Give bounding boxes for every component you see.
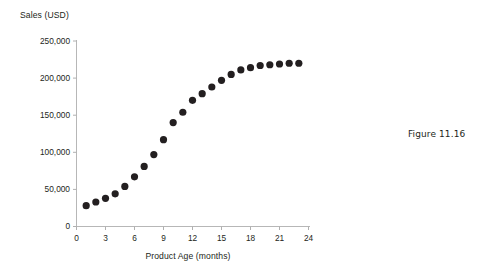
data-point [102, 195, 109, 202]
y-axis-tick-marks [73, 41, 77, 227]
y-axis-tick-label: 50,000 [8, 185, 70, 194]
x-axis-tick-label: 3 [91, 234, 121, 243]
sales-product-age-scatter-chart: Sales (USD) 050,000100,000150,000200,000… [0, 0, 340, 280]
data-point [189, 97, 196, 104]
figure-caption: Figure 11.16 [408, 128, 484, 140]
data-point [276, 60, 283, 67]
data-point [257, 62, 264, 69]
data-point [141, 163, 148, 170]
y-axis-tick-label: 200,000 [8, 74, 70, 83]
axis-lines [76, 40, 310, 227]
x-axis-title: Product Age (months) [76, 251, 300, 261]
y-axis-tick-label: 250,000 [8, 37, 70, 46]
data-point [247, 64, 254, 71]
x-axis-tick-label: 24 [294, 234, 324, 243]
data-point [218, 77, 225, 84]
x-axis-tick-label: 6 [120, 234, 150, 243]
data-point [150, 151, 157, 158]
x-axis-tick-label: 9 [149, 234, 179, 243]
x-axis-tick-label: 21 [265, 234, 295, 243]
data-point [92, 198, 99, 205]
data-point [83, 202, 90, 209]
x-axis-tick-marks [77, 227, 309, 231]
data-point [112, 190, 119, 197]
y-axis-tick-label: 100,000 [8, 148, 70, 157]
x-axis-tick-label: 12 [178, 234, 208, 243]
x-axis-tick-label: 0 [62, 234, 92, 243]
data-point [179, 109, 186, 116]
data-point [121, 183, 128, 190]
data-point [237, 66, 244, 73]
x-axis-tick-label: 18 [236, 234, 266, 243]
y-axis-tick-label: 0 [8, 222, 70, 231]
figure-container: Sales (USD) 050,000100,000150,000200,000… [0, 0, 488, 280]
data-point [131, 173, 138, 180]
data-point [295, 60, 302, 67]
data-point-markers [83, 60, 303, 210]
x-axis-tick-label: 15 [207, 234, 237, 243]
data-point [208, 83, 215, 90]
data-point [170, 119, 177, 126]
data-point [266, 61, 273, 68]
data-point [160, 136, 167, 143]
data-point [199, 90, 206, 97]
y-axis-tick-label: 150,000 [8, 111, 70, 120]
data-point [228, 71, 235, 78]
data-point [286, 60, 293, 67]
